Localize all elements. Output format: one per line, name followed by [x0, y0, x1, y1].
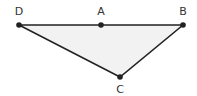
point-b: [180, 22, 186, 28]
point-c: [117, 74, 123, 80]
triangle-dbc: [19, 25, 183, 77]
point-a: [98, 22, 104, 28]
label-a: A: [97, 5, 105, 18]
label-c: C: [116, 83, 124, 96]
point-d: [16, 22, 22, 28]
label-d: D: [15, 5, 23, 18]
label-b: B: [179, 5, 187, 18]
triangle-diagram: D A B C: [0, 0, 197, 96]
